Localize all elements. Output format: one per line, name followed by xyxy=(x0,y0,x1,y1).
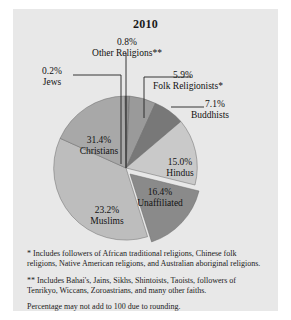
pie-label-hindus-name: Hindus xyxy=(149,168,211,179)
footnote-rounding: Percentage may not add to 100 due to rou… xyxy=(27,302,267,312)
pie-label-buddhists-name: Buddhists xyxy=(191,110,277,121)
pie-label-other-religions-name: Other Religions** xyxy=(57,48,197,59)
pie-label-unaffiliated-percent: 16.4% xyxy=(122,187,198,198)
footnote-double-star: ** Includes Bahai's, Jains, Sikhs, Shint… xyxy=(27,276,267,297)
footnote-single-star: * Includes followers of African traditio… xyxy=(27,249,267,270)
pie-label-folk-religionists: 5.9% Folk Religionists* xyxy=(153,70,273,92)
pie-label-hindus-percent: 15.0% xyxy=(149,157,211,168)
pie-label-christians: 31.4% Christians xyxy=(61,135,137,157)
pie-label-christians-name: Christians xyxy=(61,146,137,157)
pie-label-folk-religionists-name: Folk Religionists* xyxy=(153,81,273,92)
pie-label-buddhists: 7.1% Buddhists xyxy=(191,99,277,121)
pie-label-muslims-name: Muslims xyxy=(75,216,139,227)
pie-label-folk-religionists-percent: 5.9% xyxy=(153,70,273,81)
pie-label-jews-name: Jews xyxy=(24,77,80,88)
pie-label-jews-percent: 0.2% xyxy=(24,66,80,77)
figure-panel: 2010 0.8% xyxy=(13,9,278,311)
pie-label-christians-percent: 31.4% xyxy=(61,135,137,146)
pie-label-hindus: 15.0% Hindus xyxy=(149,157,211,179)
pie-label-other-religions-percent: 0.8% xyxy=(57,37,197,48)
pie-label-buddhists-percent: 7.1% xyxy=(191,99,277,110)
pie-label-other-religions: 0.8% Other Religions** xyxy=(57,37,197,59)
pie-label-muslims-percent: 23.2% xyxy=(75,205,139,216)
pie-label-muslims: 23.2% Muslims xyxy=(75,205,139,227)
footnotes: * Includes followers of African traditio… xyxy=(27,249,267,312)
pie-label-jews: 0.2% Jews xyxy=(24,66,80,88)
